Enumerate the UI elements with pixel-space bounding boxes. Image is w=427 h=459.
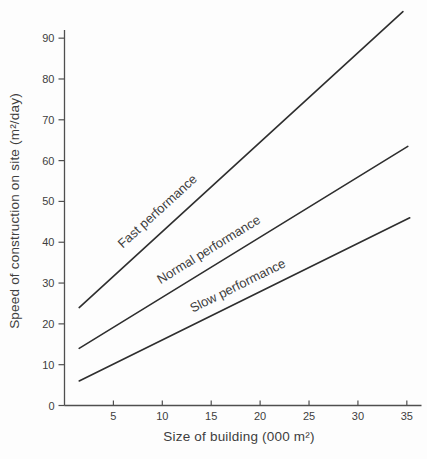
x-axis-title: Size of building (000 m²) bbox=[163, 429, 314, 444]
x-tick-label: 25 bbox=[303, 410, 315, 422]
plot-layer: 51015202530350102030405060708090Fast per… bbox=[42, 12, 421, 422]
line-chart: 51015202530350102030405060708090Fast per… bbox=[0, 0, 427, 459]
construction-speed-figure: 51015202530350102030405060708090Fast per… bbox=[0, 0, 427, 459]
y-tick-label: 80 bbox=[42, 73, 54, 85]
y-tick-label: 0 bbox=[48, 400, 54, 412]
y-tick-label: 70 bbox=[42, 114, 54, 126]
x-tick-label: 10 bbox=[156, 410, 168, 422]
x-tick-label: 35 bbox=[401, 410, 413, 422]
y-tick-label: 40 bbox=[42, 236, 54, 248]
y-tick-label: 30 bbox=[42, 277, 54, 289]
y-tick-label: 90 bbox=[42, 32, 54, 44]
y-tick-label: 20 bbox=[42, 318, 54, 330]
y-tick-label: 60 bbox=[42, 155, 54, 167]
y-tick-label: 50 bbox=[42, 195, 54, 207]
x-tick-label: 20 bbox=[254, 410, 266, 422]
x-tick-label: 5 bbox=[110, 410, 116, 422]
y-tick-label: 10 bbox=[42, 359, 54, 371]
series-line-fast-performance bbox=[79, 12, 403, 308]
x-tick-label: 15 bbox=[205, 410, 217, 422]
x-tick-label: 30 bbox=[352, 410, 364, 422]
y-axis-title: Speed of construction on site (m²/day) bbox=[7, 93, 22, 329]
series-label-fast-performance: Fast performance bbox=[115, 171, 200, 251]
